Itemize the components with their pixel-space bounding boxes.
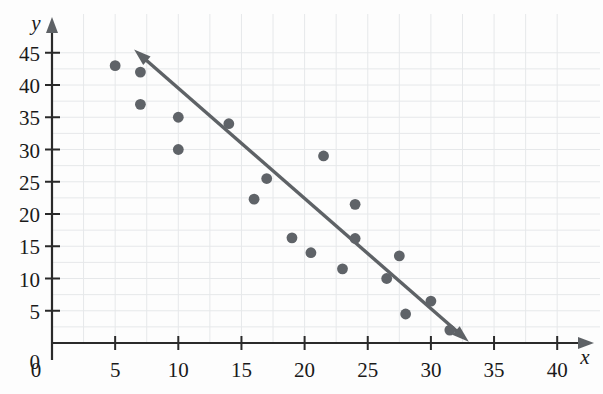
y-tick-label: 30	[19, 139, 40, 163]
x-tick-label: 40	[547, 358, 568, 382]
data-point	[350, 199, 361, 210]
x-tick-label: 15	[231, 358, 252, 382]
data-point	[394, 251, 405, 262]
data-point	[135, 99, 146, 110]
data-point	[110, 60, 121, 71]
y-tick-label: 45	[19, 42, 40, 66]
data-point	[318, 151, 329, 162]
x-tick-label: 35	[484, 358, 505, 382]
x-tick-label: 30	[420, 358, 441, 382]
y-tick-label: 40	[19, 74, 40, 98]
y-tick-label: 15	[19, 235, 40, 259]
data-point	[306, 247, 317, 258]
data-point	[381, 273, 392, 284]
x-tick-label: 5	[110, 358, 121, 382]
y-tick-label: 5	[30, 300, 41, 324]
data-point	[249, 194, 260, 205]
y-axis-label: y	[29, 11, 41, 35]
data-point	[173, 112, 184, 123]
x-tick-label: 10	[168, 358, 189, 382]
data-point	[337, 263, 348, 274]
data-point	[444, 325, 455, 336]
y-tick-label: 10	[19, 268, 40, 292]
y-tick-label: 25	[19, 171, 40, 195]
data-point	[135, 67, 146, 78]
data-point	[287, 232, 298, 243]
data-point	[261, 173, 272, 184]
data-point	[400, 309, 411, 320]
data-point	[173, 144, 184, 155]
scatter-plot-figure: 0510152025303540 051015202530354045 x y	[0, 0, 603, 394]
x-tick-label: 25	[357, 358, 378, 382]
data-point	[223, 118, 234, 129]
y-tick-label: 0	[30, 350, 41, 374]
x-tick-label: 20	[294, 358, 315, 382]
x-axis-label: x	[579, 345, 590, 369]
y-tick-label: 35	[19, 106, 40, 130]
data-point	[350, 233, 361, 244]
data-point	[426, 296, 437, 307]
plot-canvas: 0510152025303540 051015202530354045 x y	[0, 0, 603, 394]
y-tick-label: 20	[19, 203, 40, 227]
x-tick-labels-group: 0510152025303540	[31, 358, 568, 382]
